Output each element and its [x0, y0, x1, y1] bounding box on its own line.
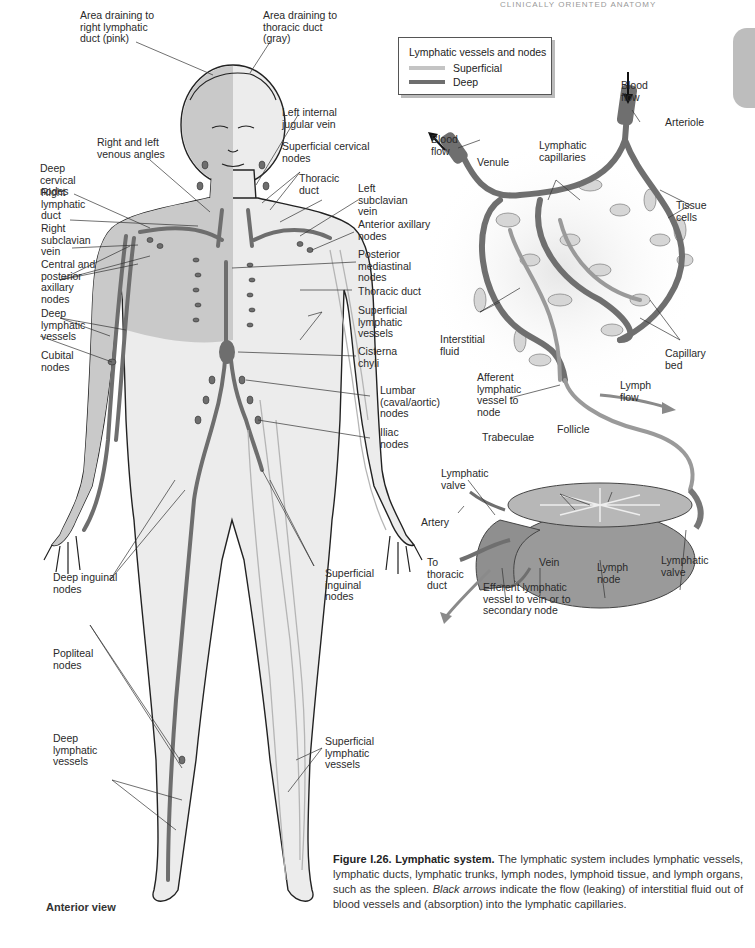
- label-capillary-bed: Capillary bed: [665, 348, 706, 371]
- label-deep-inguinal: Deep inguinal nodes: [53, 572, 117, 595]
- label-lymphatic-valve-left: Lymphatic valve: [441, 468, 488, 491]
- label-follicle: Follicle: [557, 424, 590, 436]
- label-deep-lymphatic-leg: Deep lymphatic vessels: [53, 733, 97, 768]
- label-blood-flow-right: Blood flow: [621, 80, 648, 103]
- label-popliteal: Popliteal nodes: [53, 648, 93, 671]
- label-area-right-duct: Area draining to right lymphatic duct (p…: [80, 10, 154, 45]
- label-left-subclavian: Left subclavian vein: [358, 183, 408, 218]
- label-deep-lymphatic-arm: Deep lymphatic vessels: [41, 308, 85, 343]
- label-vein: Vein: [539, 557, 559, 569]
- view-label: Anterior view: [46, 901, 116, 913]
- label-left-internal-jugular: Left internal jugular vein: [282, 107, 337, 130]
- label-arteriole: Arteriole: [665, 117, 704, 129]
- label-afferent-vessel: Afferent lymphatic vessel to node: [477, 372, 521, 418]
- label-interstitial-fluid: Interstitial fluid: [440, 334, 485, 357]
- legend-label: Deep: [453, 76, 478, 88]
- label-lumbar-nodes: Lumbar (caval/aortic) nodes: [380, 385, 440, 420]
- label-thoracic-duct-mid: Thoracic duct: [358, 286, 421, 298]
- label-thoracic-duct-upper: Thoracic duct: [299, 173, 339, 196]
- legend-item-superficial: Superficial: [409, 62, 502, 74]
- caption-italic: Black arrows: [433, 883, 496, 895]
- label-tissue-cells: Tissue cells: [676, 200, 707, 223]
- label-central-posterior-axillary: Central and posterior axillary nodes: [41, 259, 95, 305]
- label-lymph-node: Lymph node: [597, 562, 628, 585]
- label-venule: Venule: [477, 157, 509, 169]
- label-trabeculae: Trabeculae: [482, 432, 534, 444]
- label-lymphatic-capillaries: Lymphatic capillaries: [539, 140, 586, 163]
- figure-caption: Figure I.26. Lymphatic system. The lymph…: [333, 852, 743, 912]
- label-anterior-axillary: Anterior axillary nodes: [358, 219, 430, 242]
- figure-title: Lymphatic system.: [395, 853, 494, 865]
- label-right-lymphatic-duct: Right lymphatic duct: [41, 187, 85, 222]
- cisterna-chyli-shape: [219, 340, 235, 364]
- legend-label: Superficial: [453, 62, 502, 74]
- label-superficial-lymphatic-arm: Superficial lymphatic vessels: [358, 305, 407, 340]
- label-iliac-nodes: Iliac nodes: [380, 427, 409, 450]
- deep-swatch: [409, 80, 445, 84]
- label-cubital-nodes: Cubital nodes: [41, 350, 74, 373]
- label-to-thoracic-duct: To thoracic duct: [427, 557, 464, 592]
- label-lymph-flow: Lymph flow: [620, 380, 651, 403]
- legend: Lymphatic vessels and nodes Superficial …: [398, 37, 552, 95]
- superficial-swatch: [409, 66, 445, 70]
- label-lymphatic-valve-right: Lymphatic valve: [661, 555, 708, 578]
- label-blood-flow-left: Blood flow: [431, 134, 458, 157]
- label-superficial-cervical: Superficial cervical nodes: [282, 141, 370, 164]
- label-venous-angles: Right and left venous angles: [97, 137, 165, 160]
- label-posterior-mediastinal: Posterior mediastinal nodes: [358, 249, 411, 284]
- legend-title: Lymphatic vessels and nodes: [409, 46, 546, 58]
- label-area-thoracic-duct: Area draining to thoracic duct (gray): [263, 10, 337, 45]
- figure-number: Figure I.26.: [333, 853, 392, 865]
- label-cisterna-chyli: Cisterna chyli: [358, 346, 397, 369]
- label-artery: Artery: [421, 517, 449, 529]
- legend-item-deep: Deep: [409, 76, 478, 88]
- label-efferent-vessel: Efferent lymphatic vessel to vein or to …: [483, 582, 571, 617]
- label-superficial-inguinal: Superficial inguinal nodes: [325, 568, 374, 603]
- label-right-subclavian: Right subclavian vein: [41, 223, 91, 258]
- label-superficial-lymphatic-leg: Superficial lymphatic vessels: [325, 736, 374, 771]
